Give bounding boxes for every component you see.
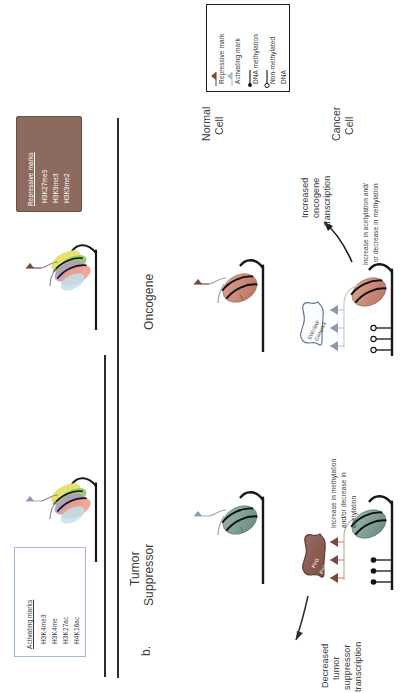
normal-cell-line2: Cell	[213, 117, 226, 136]
legend-label-dna-methylation: DNA methylation	[252, 34, 260, 84]
legend-label-repressive-mark: Repressive mark	[218, 34, 226, 84]
repressive-mark-2: H3K9me3	[52, 173, 60, 203]
figure-canvas: b. Oncogene Tumor Suppressor Normal Cell…	[0, 0, 407, 693]
increased-transcription-line2: oncogene	[311, 178, 322, 218]
nucleosome-oncogene-normal	[194, 260, 263, 352]
repressive-marks-title: Repressive marks	[27, 152, 35, 206]
activating-mark-4: H4K16ac	[73, 617, 81, 644]
activating-mark-2: H3K4me	[51, 618, 59, 644]
multicolor-nucleosome-oncogene	[26, 245, 96, 330]
decreased-transcription-line3: suppressor	[342, 644, 353, 690]
ts-change-line3: acetylation	[350, 496, 358, 528]
decreased-transcription-line2: tumor	[331, 656, 342, 680]
decreased-transcription-line1: Decreased	[320, 644, 331, 688]
increased-transcription-line1: Increased	[300, 178, 311, 218]
cancer-cell-line2: Cell	[343, 117, 356, 136]
oncogene-change-line2: or decrease in methylation	[372, 183, 380, 262]
activating-mark-3: H3K27ac	[62, 617, 70, 644]
arrow-decreased-transcription	[296, 596, 308, 640]
arrow-increased-transcription	[324, 222, 352, 262]
decreased-transcription-line4: transcription	[353, 642, 364, 692]
non-methylated-dna-lollipops-oncogene	[371, 325, 392, 352]
legend-label-non-methylated-dna-line2: DNA	[280, 70, 288, 84]
legend-label-activating-mark: Activating mark	[234, 38, 242, 84]
pcg-line1: PcG	[310, 557, 320, 569]
increased-transcription-line3: transcription	[322, 176, 333, 226]
cancer-cell-line1: Cancer	[330, 107, 343, 141]
normal-cell-line1: Normal	[200, 107, 213, 141]
ts-label-line1: Tumor	[128, 551, 143, 586]
divider-oncogene	[117, 118, 119, 678]
activating-marks-title: Activating marks	[26, 600, 34, 649]
oncogene-change-line1: Increase in acetylation and/	[362, 183, 370, 265]
dna-methylation-lollipops-tumor-suppressor	[371, 557, 392, 585]
ts-change-line1: Increase in methylation	[330, 459, 338, 528]
legend-label-non-methylated-dna-line1: Non-methylated	[269, 37, 277, 84]
repressive-mark-3: H3K9me2	[63, 173, 71, 203]
column-label-oncogene: Oncogene	[142, 274, 157, 330]
nucleosome-tumor-suppressor-normal	[194, 492, 263, 584]
divider-tumor-suppressor	[104, 355, 106, 677]
ts-label-line2: Suppressor	[142, 544, 157, 606]
activating-mark-flags-oncogene	[330, 286, 357, 351]
ts-change-line2: and/or decrease in	[340, 472, 348, 528]
repressive-mark-1: H3K27me3	[41, 170, 49, 203]
panel-label: b.	[139, 646, 154, 656]
activating-mark-1: H3K4me3	[40, 614, 48, 644]
